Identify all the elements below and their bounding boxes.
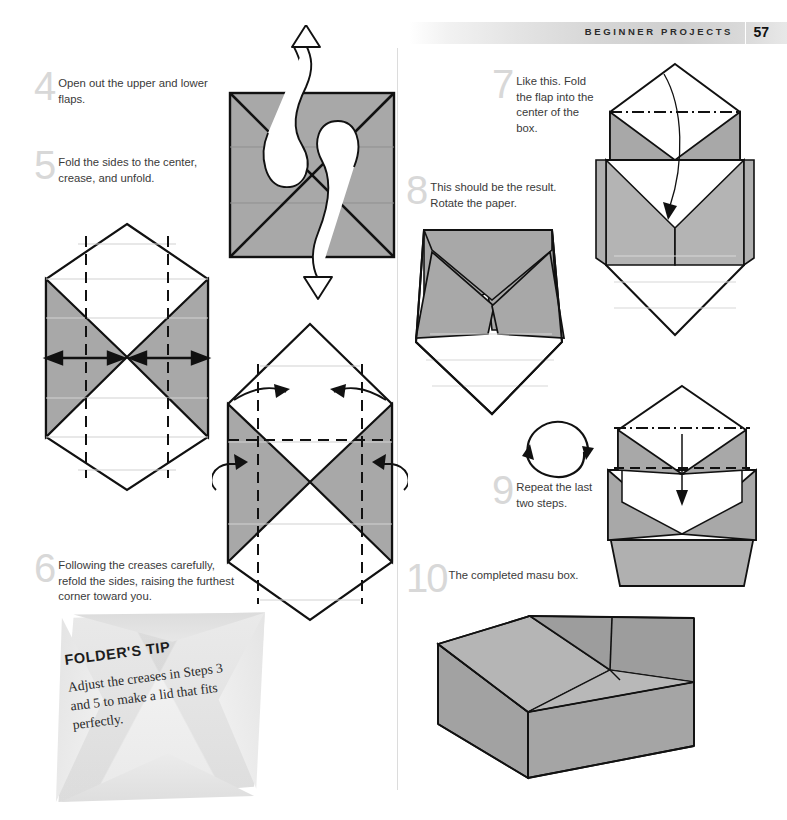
step-9-number: 9	[492, 474, 514, 506]
page-number: 57	[753, 24, 769, 40]
step-4-number: 4	[34, 70, 56, 102]
step-9: 9 Repeat the last two steps.	[492, 478, 602, 511]
step5-diagram	[32, 222, 222, 492]
step-6-number: 6	[34, 552, 56, 584]
step-4-text: Open out the upper and lower flaps.	[58, 74, 214, 107]
page-canvas: BEGINNER PROJECTS 57 4 Open out the uppe…	[0, 0, 787, 820]
step-6: 6 Following the creases carefully, refol…	[34, 556, 239, 605]
step-8: 8 This should be the result. Rotate the …	[406, 178, 586, 211]
step-10-text: The completed masu box.	[449, 566, 579, 584]
step8-diagram	[402, 222, 582, 432]
step-4: 4 Open out the upper and lower flaps.	[34, 74, 214, 107]
step10-diagram	[432, 612, 700, 790]
step-5-text: Fold the sides to the center, crease, an…	[58, 153, 219, 186]
step-9-text: Repeat the last two steps.	[516, 478, 602, 511]
step-5: 5 Fold the sides to the center, crease, …	[34, 153, 219, 186]
header-divider	[745, 20, 746, 52]
rotate-symbol	[514, 416, 600, 482]
step9-diagram	[592, 382, 772, 602]
section-title: BEGINNER PROJECTS	[585, 26, 733, 37]
step-7-number: 7	[492, 68, 514, 100]
step-10-number: 10	[406, 562, 447, 594]
step4-diagram	[222, 25, 402, 300]
step6-diagram	[212, 312, 408, 630]
step-5-number: 5	[34, 149, 56, 181]
step-10: 10 The completed masu box.	[406, 566, 616, 594]
folders-tip: FOLDER'S TIP Adjust the creases in Steps…	[52, 612, 267, 802]
step7-diagram	[580, 60, 770, 360]
step-8-text: This should be the result. Rotate the pa…	[430, 178, 586, 211]
step-8-number: 8	[406, 174, 428, 206]
